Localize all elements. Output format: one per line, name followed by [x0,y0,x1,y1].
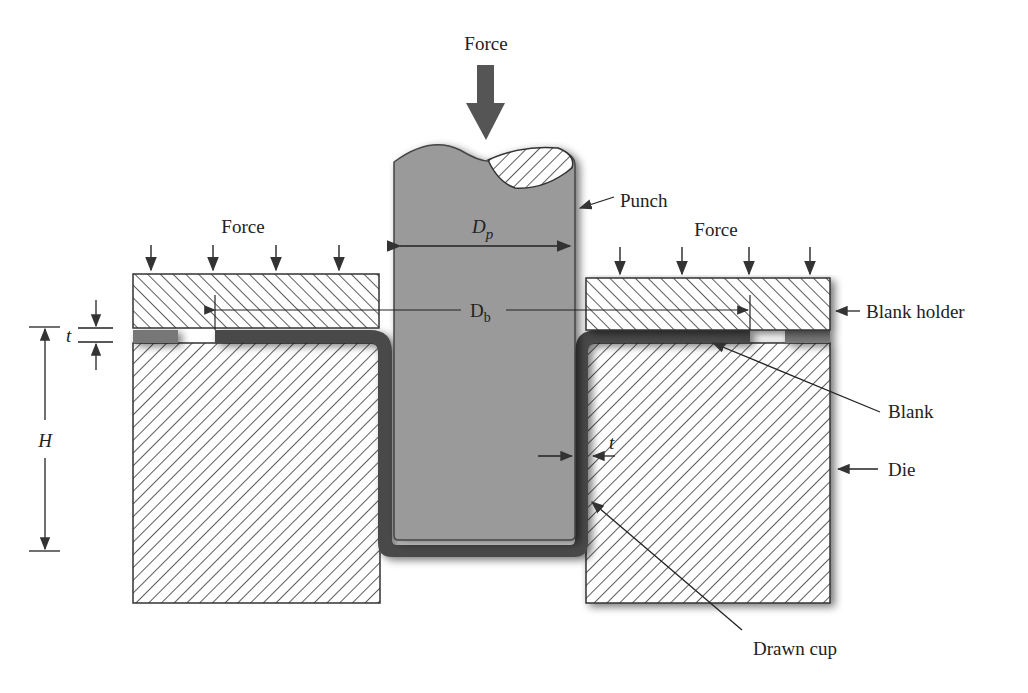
punch-leader [580,197,614,208]
die-right [586,343,830,603]
die-label: Die [888,459,915,480]
blank-thickness-label: t [66,325,72,346]
blank-label: Blank [888,401,934,422]
deep-drawing-diagram: Force Force Force D [0,0,1028,693]
force-label-left: Force [221,216,264,237]
force-arrows-right-icon [620,247,810,274]
blank-thickness-dimension [78,300,113,370]
wall-thickness-label: t [609,432,615,453]
main-force-arrow-icon [466,65,505,140]
blank-holder-right [586,278,830,330]
blank-holder-label: Blank holder [866,301,965,322]
force-label-top: Force [464,33,507,54]
die-left [133,343,380,603]
height-label: H [37,430,53,451]
force-label-right: Force [694,219,737,240]
drawn-cup-label: Drawn cup [753,638,837,659]
punch-label: Punch [620,190,668,211]
blank-holder-left [133,274,379,328]
force-arrows-left-icon [151,245,339,270]
punch [394,145,575,540]
